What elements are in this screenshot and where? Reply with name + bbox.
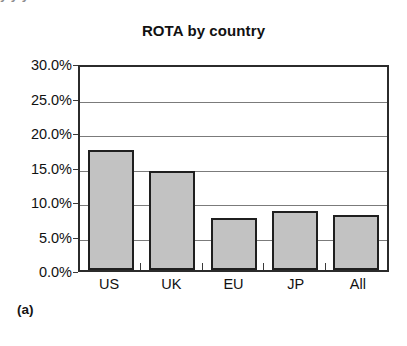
x-tick-label-all: All [327, 276, 389, 292]
cutoff-text-strip: y y y [0, 0, 407, 9]
y-tick-label: 25.0% [31, 92, 72, 108]
y-tick-mark [73, 272, 78, 273]
figure-caption: (a) [17, 302, 34, 317]
bars-layer [80, 67, 387, 270]
bar-slot [264, 67, 325, 270]
x-tick-label-eu: EU [202, 276, 264, 292]
y-tick-label: 20.0% [31, 126, 72, 142]
x-axis: USUKEUJPAll [78, 276, 389, 292]
bar-slot [141, 67, 202, 270]
bar-slot [326, 67, 387, 270]
cutoff-text-fragment: y y y [0, 0, 29, 2]
y-axis: 0.0%5.0%10.0%15.0%20.0%25.0%30.0% [0, 65, 72, 272]
y-tick-label: 5.0% [39, 230, 72, 246]
x-tick-label-jp: JP [265, 276, 327, 292]
x-tick-label-us: US [78, 276, 140, 292]
bar-all [333, 215, 379, 270]
bar-slot [203, 67, 264, 270]
bar-uk [149, 171, 195, 270]
bar-jp [272, 211, 318, 270]
y-tick-label: 15.0% [31, 161, 72, 177]
bar-slot [80, 67, 141, 270]
y-tick-label: 10.0% [31, 195, 72, 211]
chart-title: ROTA by country [0, 22, 407, 39]
bar-us [88, 150, 134, 270]
y-tick-label: 30.0% [31, 57, 72, 73]
x-tick-label-uk: UK [140, 276, 202, 292]
plot-area [78, 65, 389, 272]
y-tick-label: 0.0% [39, 264, 72, 280]
bar-eu [211, 218, 257, 270]
